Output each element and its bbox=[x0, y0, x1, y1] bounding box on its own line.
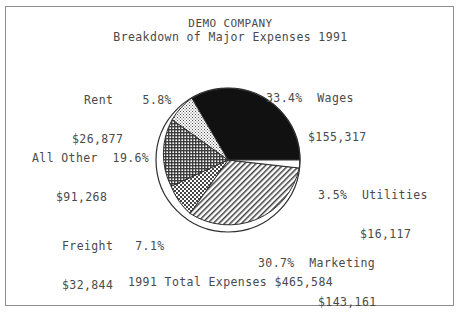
label-marketing-row1: 30.7% Marketing bbox=[258, 257, 377, 270]
label-marketing-row2: $143,161 bbox=[318, 296, 377, 309]
label-wages-row2: $155,317 bbox=[308, 131, 367, 144]
label-wages: 33.4% Wages $155,317 bbox=[266, 66, 367, 157]
label-utilities-row1: 3.5% Utilities bbox=[318, 189, 428, 202]
label-marketing: 30.7% Marketing $143,161 bbox=[258, 231, 377, 314]
label-allother-row2: $91,268 bbox=[56, 191, 149, 204]
label-rent-row1: Rent 5.8% bbox=[84, 94, 172, 107]
chart-title-company: DEMO COMPANY bbox=[0, 17, 461, 30]
label-freight: Freight 7.1% $32,844 bbox=[62, 214, 165, 305]
label-allother-row1: All Other 19.6% bbox=[32, 152, 149, 165]
label-freight-row1: Freight 7.1% bbox=[62, 240, 165, 253]
total-expenses-line: 1991 Total Expenses $465,584 bbox=[0, 276, 461, 289]
label-wages-row1: 33.4% Wages bbox=[266, 92, 367, 105]
chart-subtitle: Breakdown of Major Expenses 1991 bbox=[0, 31, 461, 44]
label-allother: All Other 19.6% $91,268 bbox=[32, 126, 149, 217]
